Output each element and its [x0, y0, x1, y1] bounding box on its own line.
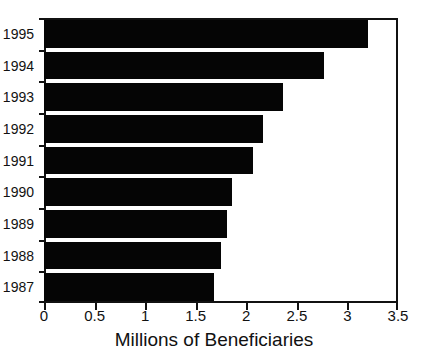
bar-row — [44, 147, 398, 175]
x-axis-title: Millions of Beneficiaries — [0, 330, 428, 351]
x-axis-tick-label-1.5: 1.5 — [185, 308, 206, 323]
bar-chart: 199519941993199219911990198919881987 00.… — [0, 0, 428, 358]
y-axis-tick — [39, 50, 46, 52]
x-axis-tick-label-2: 2 — [242, 308, 250, 323]
x-axis-tick-label-3: 3 — [343, 308, 351, 323]
y-axis-label-1989: 1989 — [3, 217, 34, 231]
bar-row — [44, 52, 398, 80]
y-axis-tick — [39, 240, 46, 242]
y-axis-tick — [39, 113, 46, 115]
bar-1993 — [44, 83, 283, 111]
y-axis-tick — [39, 81, 46, 83]
bar-1989 — [44, 210, 227, 238]
y-axis-tick — [39, 145, 46, 147]
y-axis-tick — [39, 18, 46, 20]
y-axis-tick — [39, 271, 46, 273]
bar-row — [44, 178, 398, 206]
bar-row — [44, 20, 398, 48]
x-axis-tick-label-1: 1 — [141, 308, 149, 323]
bars-layer — [44, 18, 398, 303]
y-axis-tick — [39, 176, 46, 178]
y-axis-tick — [39, 208, 46, 210]
bar-1992 — [44, 115, 263, 143]
y-axis-label-1995: 1995 — [3, 27, 34, 41]
y-axis-label-1987: 1987 — [3, 280, 34, 294]
x-axis-tick-labels: 00.511.522.533.5 — [44, 308, 398, 330]
x-axis-tick-label-3.5: 3.5 — [388, 308, 409, 323]
bar-1995 — [44, 20, 368, 48]
y-axis-label-1990: 1990 — [3, 185, 34, 199]
bar-row — [44, 273, 398, 301]
y-axis-label-1994: 1994 — [3, 59, 34, 73]
y-axis-label-1992: 1992 — [3, 122, 34, 136]
y-axis-labels: 199519941993199219911990198919881987 — [0, 18, 40, 303]
y-axis-label-1991: 1991 — [3, 154, 34, 168]
bar-row — [44, 83, 398, 111]
bar-1987 — [44, 273, 214, 301]
bar-1990 — [44, 178, 232, 206]
x-axis-tick-label-0: 0 — [40, 308, 48, 323]
x-axis-tick-label-2.5: 2.5 — [286, 308, 307, 323]
y-axis-label-1988: 1988 — [3, 249, 34, 263]
y-axis-label-1993: 1993 — [3, 90, 34, 104]
bar-1991 — [44, 147, 253, 175]
bar-row — [44, 242, 398, 270]
bar-1988 — [44, 242, 221, 270]
x-axis-tick-label-0.5: 0.5 — [84, 308, 105, 323]
bar-row — [44, 210, 398, 238]
bar-1994 — [44, 52, 324, 80]
bar-row — [44, 115, 398, 143]
